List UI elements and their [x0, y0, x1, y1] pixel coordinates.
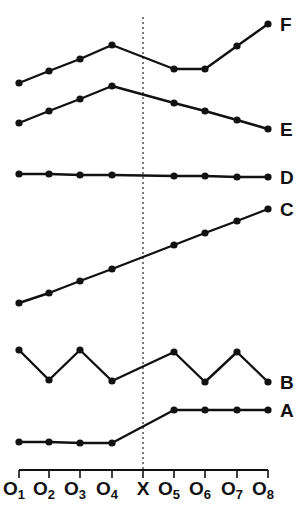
- data-point: [201, 65, 208, 72]
- tick-label: O2: [33, 478, 55, 502]
- data-point: [108, 82, 115, 89]
- data-point: [108, 439, 115, 446]
- data-point: [233, 42, 240, 49]
- data-point: [76, 171, 83, 178]
- data-point: [45, 376, 52, 383]
- data-point: [76, 439, 83, 446]
- tick-label: O3: [64, 478, 86, 502]
- data-point: [264, 205, 271, 212]
- data-point: [108, 171, 115, 178]
- data-point: [233, 173, 240, 180]
- series-b: B: [15, 346, 293, 393]
- tick-label: O8: [252, 478, 274, 502]
- series-d: D: [15, 167, 293, 188]
- data-point: [170, 241, 177, 248]
- series-label-c: C: [280, 199, 294, 220]
- data-point: [170, 348, 177, 355]
- data-point: [264, 406, 271, 413]
- series-label-e: E: [280, 119, 293, 140]
- data-point: [201, 107, 208, 114]
- data-point: [15, 346, 22, 353]
- data-point: [76, 95, 83, 102]
- data-point: [15, 299, 22, 306]
- data-point: [170, 406, 177, 413]
- data-point: [264, 20, 271, 27]
- data-point: [170, 65, 177, 72]
- tick-label: O7: [221, 478, 243, 502]
- data-point: [76, 346, 83, 353]
- data-point: [108, 41, 115, 48]
- data-point: [170, 172, 177, 179]
- data-point: [108, 377, 115, 384]
- data-point: [201, 378, 208, 385]
- data-point: [45, 438, 52, 445]
- data-point: [264, 378, 271, 385]
- data-point: [233, 217, 240, 224]
- data-point: [45, 170, 52, 177]
- data-point: [15, 438, 22, 445]
- tick-label: O5: [158, 478, 180, 502]
- series-label-b: B: [280, 372, 294, 393]
- data-point: [15, 170, 22, 177]
- data-point: [233, 406, 240, 413]
- data-point: [264, 173, 271, 180]
- data-point: [201, 229, 208, 236]
- data-point: [45, 67, 52, 74]
- data-point: [15, 79, 22, 86]
- data-point: [76, 55, 83, 62]
- data-point: [15, 119, 22, 126]
- data-point: [264, 125, 271, 132]
- x-axis-ticks: O1O2O3O4XO5O6O7O8: [3, 470, 274, 502]
- interrupted-time-series-chart: FEDCBA O1O2O3O4XO5O6O7O8: [0, 0, 306, 510]
- data-point: [108, 265, 115, 272]
- series-f: F: [15, 14, 291, 87]
- series-label-a: A: [280, 400, 294, 421]
- tick-label: O4: [96, 478, 119, 502]
- series-label-f: F: [280, 14, 292, 35]
- series-layer: FEDCBA: [15, 14, 294, 447]
- data-point: [45, 289, 52, 296]
- data-point: [201, 406, 208, 413]
- data-point: [233, 116, 240, 123]
- tick-label: O1: [3, 478, 25, 502]
- tick-label: X: [137, 478, 150, 499]
- data-point: [76, 277, 83, 284]
- data-point: [170, 99, 177, 106]
- series-label-d: D: [280, 167, 294, 188]
- series-c: C: [15, 199, 294, 307]
- series-line: [19, 174, 268, 177]
- tick-label: O6: [189, 478, 211, 502]
- data-point: [201, 172, 208, 179]
- data-point: [233, 348, 240, 355]
- series-a: A: [15, 400, 294, 447]
- data-point: [45, 107, 52, 114]
- series-e: E: [15, 82, 292, 140]
